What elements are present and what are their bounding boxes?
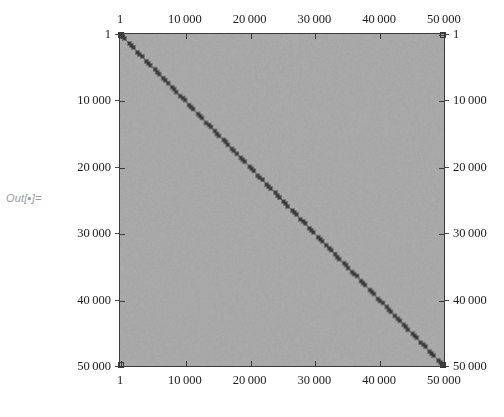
axis-tick-left xyxy=(120,101,125,102)
axis-bottom-tick-label: 20 000 xyxy=(233,374,267,387)
axis-bottom-tick-label: 50 000 xyxy=(427,374,461,387)
axis-top-tick-label: 30 000 xyxy=(298,13,332,26)
axis-top-tick-label: 10 000 xyxy=(168,13,202,26)
axis-tick-left xyxy=(120,301,125,302)
axis-tick-bottom xyxy=(315,361,316,366)
axis-left-tick-label: 50 000 xyxy=(77,360,111,373)
axis-left-tick-label: 1 xyxy=(105,28,111,41)
axis-left-tick-label: 30 000 xyxy=(77,227,111,240)
frame-corner-notch xyxy=(118,362,124,368)
axis-tick-left-outer xyxy=(115,100,119,101)
axis-bottom-tick-label: 1 xyxy=(117,374,123,387)
axis-right-tick-label: 1 xyxy=(453,28,459,41)
axis-left-tick-label: 20 000 xyxy=(77,161,111,174)
frame-corner-notch xyxy=(118,32,124,38)
axis-tick-left-outer xyxy=(115,233,119,234)
axis-left-tick-label: 40 000 xyxy=(77,293,111,306)
axis-tick-right xyxy=(439,168,444,169)
axis-right-tick-label: 40 000 xyxy=(453,293,487,306)
axis-tick-bottom xyxy=(380,361,381,366)
axis-tick-bottom xyxy=(251,361,252,366)
axis-tick-top xyxy=(186,34,187,39)
frame-corner-notch xyxy=(440,362,446,368)
axis-tick-right-outer xyxy=(445,300,449,301)
axis-top-tick-label: 50 000 xyxy=(427,13,461,26)
axis-tick-right xyxy=(439,101,444,102)
axis-bottom-tick-label: 10 000 xyxy=(168,374,202,387)
axis-top-tick-label: 20 000 xyxy=(233,13,267,26)
axis-tick-left xyxy=(120,168,125,169)
axis-tick-bottom xyxy=(186,361,187,366)
matrix-plot-frame[interactable] xyxy=(119,33,445,367)
axis-tick-left-outer xyxy=(115,167,119,168)
frame-corner-notch xyxy=(440,32,446,38)
axis-left-tick-label: 10 000 xyxy=(77,94,111,107)
axis-bottom-tick-label: 40 000 xyxy=(362,374,396,387)
axis-tick-left-outer xyxy=(115,300,119,301)
axis-right-tick-label: 20 000 xyxy=(453,161,487,174)
axis-tick-top xyxy=(380,34,381,39)
axis-tick-right-outer xyxy=(445,100,449,101)
axis-tick-left xyxy=(120,234,125,235)
axis-right-tick-label: 50 000 xyxy=(453,360,487,373)
axis-tick-right xyxy=(439,301,444,302)
axis-right-tick-label: 30 000 xyxy=(453,227,487,240)
axis-top-tick-label: 1 xyxy=(117,13,123,26)
axis-tick-right xyxy=(439,234,444,235)
axis-bottom-tick-label: 30 000 xyxy=(298,374,332,387)
matrix-plot-canvas[interactable] xyxy=(120,34,444,366)
axis-top-tick-label: 40 000 xyxy=(362,13,396,26)
out-cell-label[interactable]: Out[▪]= xyxy=(6,192,42,204)
axis-tick-right-outer xyxy=(445,233,449,234)
axis-tick-top xyxy=(315,34,316,39)
axis-right-tick-label: 10 000 xyxy=(453,94,487,107)
notebook-output-cell: Out[▪]= 110 00020 00030 00040 00050 000 … xyxy=(0,0,504,417)
axis-tick-top xyxy=(251,34,252,39)
axis-tick-right-outer xyxy=(445,167,449,168)
